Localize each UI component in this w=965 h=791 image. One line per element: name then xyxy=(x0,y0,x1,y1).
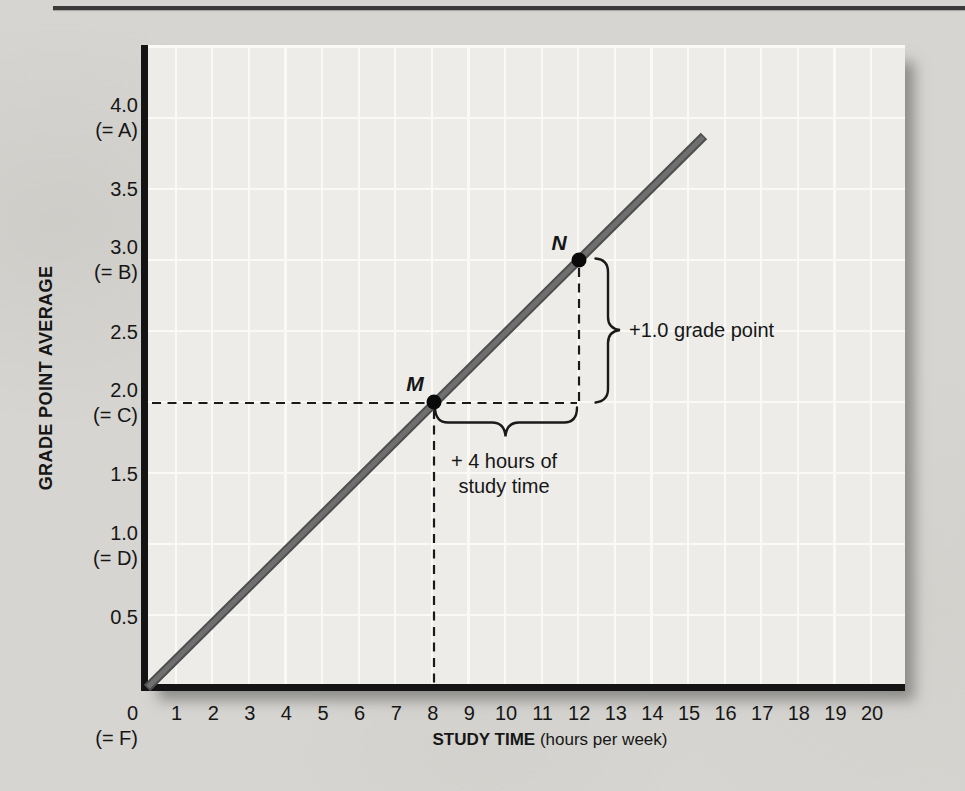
x-tick-9: 9 xyxy=(464,701,475,725)
y-tick-value: 3.0 xyxy=(38,235,138,260)
y-tick-value: 2.5 xyxy=(38,320,138,345)
y-tick-1.5: 1.5 xyxy=(38,462,138,487)
y-tick-0-origin: 0 (= F) xyxy=(38,701,138,751)
annotation-hours-line2: study time xyxy=(451,474,557,499)
brace-hours-gain xyxy=(435,408,577,437)
gpa-line xyxy=(148,137,703,687)
x-axis-title: STUDY TIME (hours per week) xyxy=(170,729,930,751)
y-tick-value: 2.0 xyxy=(38,378,138,403)
x-axis-title-units: (hours per week) xyxy=(540,730,668,749)
x-tick-7: 7 xyxy=(391,701,402,725)
x-tick-18: 18 xyxy=(788,701,810,725)
y-tick-grade: (= B) xyxy=(38,260,138,285)
x-tick-20: 20 xyxy=(861,701,883,725)
x-tick-8: 8 xyxy=(427,701,438,725)
x-tick-4: 4 xyxy=(281,701,292,725)
x-axis-title-main: STUDY TIME xyxy=(433,730,536,749)
y-tick-3.0: 3.0 (= B) xyxy=(38,235,138,285)
point-M-label: M xyxy=(406,372,424,396)
y-tick-3.5: 3.5 xyxy=(38,177,138,202)
annotation-hours-gain: + 4 hours of study time xyxy=(451,449,557,499)
annotation-grade-gain: +1.0 grade point xyxy=(629,319,774,342)
brace-grade-gain xyxy=(596,259,621,403)
x-tick-11: 11 xyxy=(532,701,553,725)
x-tick-15: 15 xyxy=(678,701,700,725)
annotation-hours-line1: + 4 hours of xyxy=(451,449,557,474)
point-N xyxy=(572,253,587,268)
y-tick-value: 0 xyxy=(38,701,138,726)
y-tick-2.0: 2.0 (= C) xyxy=(38,378,138,428)
y-tick-4.0: 4.0 (= A) xyxy=(38,93,138,143)
y-tick-value: 3.5 xyxy=(38,177,138,202)
x-tick-1: 1 xyxy=(171,701,182,725)
x-tick-10: 10 xyxy=(495,701,517,725)
y-tick-value: 1.5 xyxy=(38,462,138,487)
y-tick-1.0: 1.0 (= D) xyxy=(38,521,138,571)
y-tick-grade: (= F) xyxy=(38,726,138,751)
x-tick-2: 2 xyxy=(208,701,219,725)
point-M xyxy=(427,395,442,410)
x-tick-6: 6 xyxy=(354,701,365,725)
chart-overlay xyxy=(0,0,965,791)
x-tick-5: 5 xyxy=(317,701,328,725)
textbook-page: GRADE POINT AVERAGE 4.0 (= A) 3.5 3.0 (=… xyxy=(0,0,965,791)
x-tick-13: 13 xyxy=(605,701,627,725)
x-tick-16: 16 xyxy=(714,701,736,725)
y-tick-grade: (= D) xyxy=(38,546,138,571)
y-tick-grade: (= C) xyxy=(38,403,138,428)
y-tick-value: 1.0 xyxy=(38,521,138,546)
x-tick-14: 14 xyxy=(641,701,663,725)
y-tick-2.5: 2.5 xyxy=(38,320,138,345)
x-tick-12: 12 xyxy=(568,701,590,725)
y-tick-value: 4.0 xyxy=(38,93,138,118)
y-tick-value: 0.5 xyxy=(38,605,138,630)
x-tick-3: 3 xyxy=(244,701,255,725)
y-tick-grade: (= A) xyxy=(38,118,138,143)
x-tick-19: 19 xyxy=(824,701,846,725)
point-N-label: N xyxy=(551,231,566,255)
x-tick-17: 17 xyxy=(751,701,773,725)
y-tick-0.5: 0.5 xyxy=(38,605,138,630)
